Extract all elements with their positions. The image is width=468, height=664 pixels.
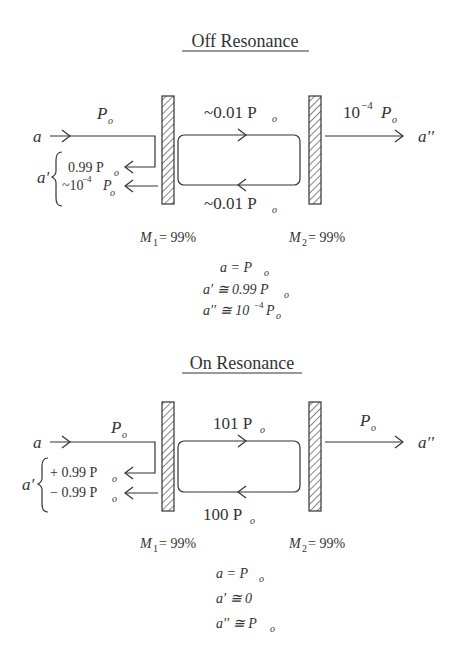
svg-text:= 99%: = 99% [308,230,345,245]
svg-text:o: o [272,113,277,124]
cavity-loop [178,135,300,185]
svg-text:o: o [371,422,376,433]
svg-text:M: M [139,230,153,245]
input-power-label: P o [96,104,113,126]
svg-text:M: M [139,536,153,551]
reflected-value-1: 0.99 P o [68,160,119,178]
output-power-label: 10 −4 P o [343,99,397,125]
reflected-label: a′ [37,168,50,187]
svg-text:= 99%: = 99% [159,536,196,551]
input-label: a [33,433,42,452]
equation-a-prime: a′ ≅ 0 [216,591,252,606]
svg-text:P: P [359,411,370,430]
svg-text:−4: −4 [254,300,264,310]
reflected-label: a′ [22,475,35,494]
brace-icon [38,458,48,512]
equation-a: a = P o [220,260,269,278]
equation-a-prime: a′ ≅ 0.99 P o [203,282,289,300]
equation-a-double-prime: a′′ ≅ P o [216,616,275,634]
svg-text:= 99%: = 99% [308,536,345,551]
mirror-1 [162,402,174,511]
svg-text:2: 2 [302,237,307,248]
svg-text:P: P [96,104,107,123]
svg-text:−4: −4 [361,99,373,111]
svg-text:10: 10 [343,103,360,122]
svg-text:1: 1 [153,237,158,248]
svg-text:−4: −4 [82,174,92,184]
mirror-2-label: M 2 = 99% [288,536,345,554]
svg-text:o: o [272,204,277,215]
svg-text:o: o [108,115,113,126]
svg-text:1: 1 [153,543,158,554]
mirror-2 [309,96,321,204]
svg-text:~0.01 P: ~0.01 P [204,194,257,213]
output-power-label: P o [359,411,376,433]
mirror-1-label: M 1 = 99% [139,536,196,554]
equation-a: a = P o [216,566,264,584]
svg-text:a′ ≅ 0.99 P: a′ ≅ 0.99 P [203,282,269,297]
svg-text:o: o [122,429,127,440]
svg-text:2: 2 [302,543,307,554]
svg-text:o: o [260,424,265,435]
svg-text:101 P: 101 P [213,414,252,433]
svg-text:= 99%: = 99% [159,230,196,245]
panel-off-resonance: Off Resonance a P o a′ 0.99 P o ~10 −4 P… [33,31,434,321]
intracavity-backward-label: 100 P o [203,505,255,526]
svg-text:o: o [114,167,119,178]
svg-text:0.99 P: 0.99 P [68,160,104,175]
svg-text:+ 0.99 P: + 0.99 P [50,465,97,480]
svg-text:− 0.99 P: − 0.99 P [50,485,97,500]
svg-text:a′ ≅ 0: a′ ≅ 0 [216,591,252,606]
fabry-perot-diagram: Off Resonance a P o a′ 0.99 P o ~10 −4 P… [0,0,468,664]
svg-text:o: o [264,267,269,278]
intracavity-forward-label: 101 P o [213,414,265,435]
cavity-loop [178,441,300,492]
svg-text:100 P: 100 P [203,505,242,524]
svg-text:P: P [265,303,275,318]
mirror-1-label: M 1 = 99% [139,230,196,248]
intracavity-backward-label: ~0.01 P o [204,194,277,215]
mirror-1 [162,96,174,204]
svg-text:o: o [276,310,281,321]
output-label: a′′ [418,433,434,452]
intracavity-forward-label: ~0.01 P o [204,103,277,124]
svg-text:a = P: a = P [220,260,252,275]
panel-on-resonance: On Resonance a P o a′ + 0.99 P o − 0.99 … [22,353,434,634]
svg-text:P: P [380,103,391,122]
brace-icon [52,152,62,206]
reflected-value-2: ~10 −4 P o [62,174,115,198]
mirror-2-label: M 2 = 99% [288,230,345,248]
output-label: a′′ [418,127,434,146]
svg-text:o: o [259,573,264,584]
svg-text:o: o [250,515,255,526]
svg-text:o: o [284,289,289,300]
panel-title: On Resonance [190,353,294,373]
svg-text:M: M [288,230,302,245]
svg-text:o: o [112,493,117,504]
svg-text:a′′ ≅ 10: a′′ ≅ 10 [203,303,249,318]
input-power-label: P o [110,418,127,440]
svg-text:o: o [392,114,397,125]
svg-text:a′′ ≅ P: a′′ ≅ P [216,616,257,631]
svg-text:~10: ~10 [62,178,84,193]
svg-text:M: M [288,536,302,551]
reflected-value-1: + 0.99 P o [50,465,117,484]
svg-text:o: o [112,473,117,484]
svg-text:a = P: a = P [216,566,248,581]
reflected-value-2: − 0.99 P o [50,485,117,504]
panel-title: Off Resonance [191,31,298,51]
svg-text:P: P [110,418,121,437]
input-label: a [33,127,42,146]
svg-text:~0.01 P: ~0.01 P [204,103,257,122]
mirror-2 [309,402,321,511]
equation-a-double-prime: a′′ ≅ 10 −4 P o [203,300,281,321]
svg-text:o: o [270,623,275,634]
svg-text:o: o [110,187,115,198]
